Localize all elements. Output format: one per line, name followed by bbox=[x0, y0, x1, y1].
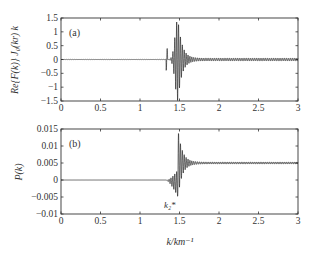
y-tick-label: −1 bbox=[48, 82, 58, 92]
y-tick-label: 0 bbox=[53, 175, 58, 185]
x-tick-label: 1 bbox=[138, 216, 143, 226]
panel-a-ylabel: Re{F(k)} J₀(kr) k bbox=[9, 25, 21, 95]
y-tick-label: 0 bbox=[53, 55, 58, 65]
panel-a-tag: (a) bbox=[69, 27, 80, 39]
panel-b-ylabel: P(k) bbox=[13, 163, 25, 182]
x-tick-label: 3 bbox=[296, 103, 301, 113]
y-tick-label: 0.5 bbox=[46, 41, 58, 51]
x-tick-label: 2 bbox=[217, 103, 222, 113]
x-axis-label: k/km⁻¹ bbox=[166, 236, 193, 247]
y-tick-label: −0.01 bbox=[36, 209, 58, 219]
panel-b-frame bbox=[61, 129, 298, 214]
y-tick-label: −1.5 bbox=[41, 96, 58, 106]
k2-annotation: k₂* bbox=[164, 200, 176, 210]
y-tick-label: 1.5 bbox=[46, 13, 58, 23]
x-tick-label: 0.5 bbox=[95, 216, 107, 226]
x-tick-label: 3 bbox=[296, 216, 301, 226]
y-tick-label: −0.005 bbox=[31, 192, 58, 202]
y-tick-label: 1 bbox=[53, 27, 58, 37]
x-tick-label: 0 bbox=[59, 103, 64, 113]
x-tick-label: 1 bbox=[138, 103, 143, 113]
panel-a-curve bbox=[61, 22, 298, 100]
x-tick-label: 2.5 bbox=[253, 216, 265, 226]
x-tick-label: 2 bbox=[217, 216, 222, 226]
y-tick-label: 0.01 bbox=[41, 141, 58, 151]
panel-b-curve bbox=[61, 134, 298, 197]
panel-a: 00.511.522.531.510.50−0.5−1−1.5 (a) Re{F… bbox=[9, 13, 301, 113]
y-tick-label: 0.005 bbox=[37, 158, 59, 168]
x-tick-label: 2.5 bbox=[253, 103, 265, 113]
panel-b-tag: (b) bbox=[69, 138, 81, 150]
x-tick-label: 0 bbox=[59, 216, 64, 226]
y-tick-label: −0.5 bbox=[41, 68, 58, 78]
y-tick-label: 0.015 bbox=[37, 124, 59, 134]
x-tick-label: 1.5 bbox=[174, 103, 186, 113]
x-tick-label: 0.5 bbox=[95, 103, 107, 113]
panel-b: 00.511.522.530.0150.010.0050−0.005−0.01 … bbox=[13, 124, 301, 226]
figure: 00.511.522.531.510.50−0.5−1−1.5 (a) Re{F… bbox=[0, 0, 313, 254]
x-tick-label: 1.5 bbox=[174, 216, 186, 226]
